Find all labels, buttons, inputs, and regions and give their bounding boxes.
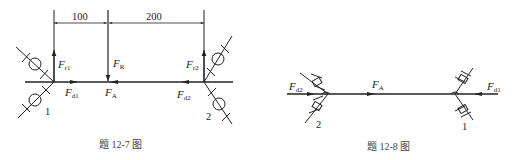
figure-12-8: Fd2 FA Fd1 2 xyxy=(287,68,501,152)
label-Fd1: Fd1 xyxy=(64,86,79,100)
bearing-1-label: 1 xyxy=(45,106,50,117)
figure-12-7: 100 200 Fr1 FR Fr2 Fd1 FA Fd2 xyxy=(16,10,233,150)
force-Fd1-arrowhead xyxy=(70,80,78,84)
label-FR: FR xyxy=(112,57,125,71)
label-FA: FA xyxy=(104,86,117,100)
label-Fd2-2: Fd2 xyxy=(288,80,303,94)
dimension-200: 200 xyxy=(146,11,162,22)
caption-12-8: 题 12-8 图 xyxy=(367,141,410,152)
force-FA-arrowhead-2 xyxy=(367,92,375,96)
label-Fr2: Fr2 xyxy=(185,58,199,72)
label-FA-2: FA xyxy=(371,78,384,92)
force-FA-arrowhead xyxy=(110,80,118,84)
bearing-2-label: 2 xyxy=(206,111,211,122)
label-Fd2: Fd2 xyxy=(176,88,191,102)
bearing-2-symbol-fig8 xyxy=(300,73,330,123)
caption-12-7: 题 12-7 图 xyxy=(99,139,142,150)
force-Fd1-arrowhead-2 xyxy=(474,92,482,96)
bearing-1-label-fig8: 1 xyxy=(462,121,467,132)
label-Fr1: Fr1 xyxy=(57,58,71,72)
label-Fd1-2: Fd1 xyxy=(486,80,501,94)
force-Fd2-arrowhead xyxy=(181,80,189,84)
dimension-100: 100 xyxy=(72,11,88,22)
bearing-2-label-fig8: 2 xyxy=(316,119,321,130)
force-Fd2-arrowhead-2 xyxy=(307,92,315,96)
